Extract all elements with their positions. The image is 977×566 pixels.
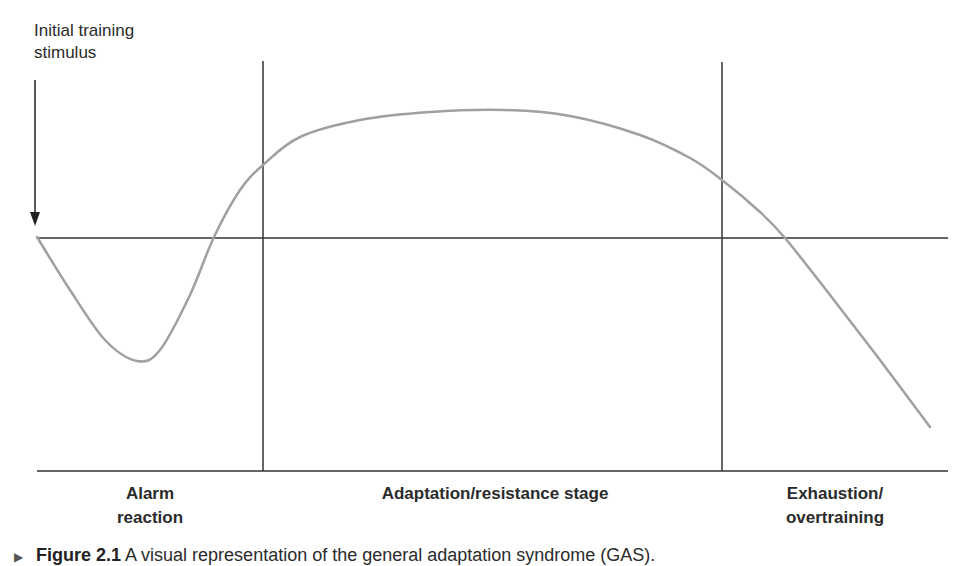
caption-text: A visual representation of the general a… <box>125 545 655 565</box>
stage-label-alarm: Alarm reaction <box>90 482 210 530</box>
figure-caption: ▶ Figure 2.1 A visual representation of … <box>14 545 655 566</box>
response-curve <box>37 110 930 427</box>
stimulus-annotation: Initial training stimulus <box>34 20 174 64</box>
caption-marker-icon: ▶ <box>14 550 23 564</box>
stage-label-adaptation-line1: Adaptation/resistance stage <box>300 482 690 506</box>
stage-label-exhaustion: Exhaustion/ overtraining <box>760 482 910 530</box>
stage-label-alarm-line2: reaction <box>90 506 210 530</box>
figure-label: Figure 2.1 <box>36 545 121 565</box>
stage-label-alarm-line1: Alarm <box>90 482 210 506</box>
stimulus-annotation-line2: stimulus <box>34 42 174 64</box>
stage-label-exhaustion-line1: Exhaustion/ <box>760 482 910 506</box>
stimulus-annotation-line1: Initial training <box>34 20 174 42</box>
down-arrow-icon <box>30 80 40 226</box>
stage-label-exhaustion-line2: overtraining <box>760 506 910 530</box>
stage-label-adaptation: Adaptation/resistance stage <box>300 482 690 506</box>
